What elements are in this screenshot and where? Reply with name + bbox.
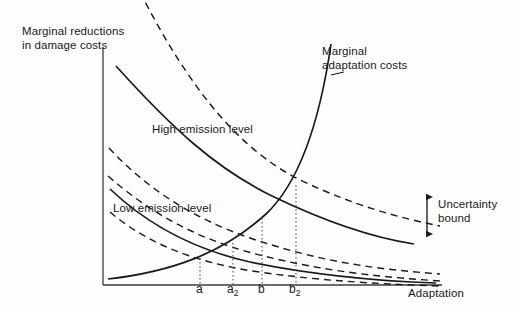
curve-high-emission bbox=[116, 66, 414, 244]
mac-label-line1: Marginal bbox=[322, 45, 367, 57]
curve-high-upper-bound bbox=[140, 0, 440, 226]
x-axis-title: Adaptation bbox=[408, 286, 464, 300]
tick-label-b: b bbox=[258, 282, 265, 296]
high-emission-level-label: High emission level bbox=[152, 122, 253, 136]
uncertainty-bound-line1: Uncertainty bbox=[438, 198, 497, 210]
y-axis-title: Marginal reductionsin damage costs bbox=[22, 24, 124, 52]
tick-label-b2: b2 bbox=[289, 282, 300, 296]
tick-label-subscript: 2 bbox=[234, 288, 239, 298]
uncertainty-bound-label: Uncertaintybound bbox=[438, 197, 497, 225]
mac-leader-line bbox=[331, 72, 344, 75]
y-axis-title-line2: in damage costs bbox=[22, 39, 107, 51]
low-emission-level-label: Low emission level bbox=[113, 201, 211, 215]
curve-low-lower-bound bbox=[110, 212, 440, 286]
figure-container: Marginal reductionsin damage costs Margi… bbox=[0, 0, 520, 312]
mac-label-line2: adaptation costs bbox=[322, 59, 407, 71]
tick-label-subscript: 2 bbox=[296, 288, 301, 298]
tick-label-a: a bbox=[196, 282, 203, 296]
curve-marginal-adaptation-costs bbox=[108, 44, 331, 279]
marginal-adaptation-costs-label: Marginaladaptation costs bbox=[322, 44, 407, 72]
y-axis-title-line1: Marginal reductions bbox=[22, 25, 124, 37]
uncertainty-bound-line2: bound bbox=[438, 212, 470, 224]
tick-label-a2: a2 bbox=[227, 282, 238, 296]
